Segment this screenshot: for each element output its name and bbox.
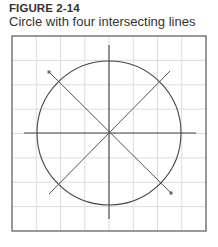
endpoint-marker-bottom-right bbox=[170, 192, 173, 195]
diagram bbox=[0, 0, 218, 247]
endpoint-marker-top-left bbox=[48, 71, 51, 74]
